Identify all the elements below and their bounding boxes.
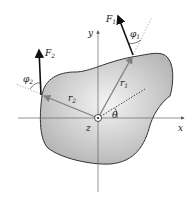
x-axis-label: x — [178, 123, 183, 133]
phi1-label: φ1 — [130, 29, 140, 40]
theta-label: θ — [112, 110, 118, 120]
z-axis-dot — [97, 117, 99, 119]
f2-vector — [39, 50, 41, 95]
y-axis-label: y — [87, 28, 94, 38]
f2-label: F2 — [44, 48, 55, 59]
f1-label: F1 — [105, 14, 116, 25]
torque-diagram: x y z θ F1 F2 φ1 φ2 r1 r2 — [0, 0, 194, 199]
z-axis-label: z — [85, 123, 91, 133]
f2-line-of-action — [16, 84, 43, 95]
phi2-label: φ2 — [23, 74, 33, 85]
rigid-body — [40, 53, 172, 164]
